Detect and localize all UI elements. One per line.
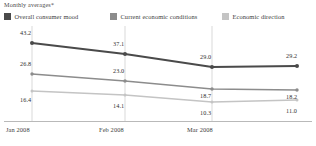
value-label-series-0-1: 37.1 <box>113 40 124 47</box>
point-series-2-1 <box>124 94 127 97</box>
point-series-2-2 <box>211 101 214 104</box>
value-label-series-0-2: 29.0 <box>200 53 211 60</box>
point-series-1-2 <box>210 87 213 90</box>
point-series-2-0 <box>31 90 34 93</box>
legend-swatch-icon-series-1 <box>110 13 117 20</box>
x-tick-label-0: Jan 2008 <box>6 126 30 133</box>
point-series-0-3 <box>295 64 299 68</box>
value-label-series-1-2: 18.7 <box>200 92 211 99</box>
point-series-1-3 <box>295 88 298 91</box>
value-label-series-2-1: 14.1 <box>113 102 124 109</box>
chart-container: Monthly averages* Overall consumer mood … <box>0 0 316 146</box>
line-series-1 <box>32 74 297 90</box>
value-label-series-2-0: 16.4 <box>20 96 31 103</box>
series-line-overall-consumer-mood <box>30 41 299 69</box>
x-axis-line <box>4 121 312 122</box>
chart-title: Monthly averages* <box>4 1 54 8</box>
point-series-0-2 <box>210 65 214 69</box>
value-label-series-2-2: 10.3 <box>200 109 211 116</box>
legend-swatch-icon-series-2 <box>222 13 229 20</box>
line-series-0 <box>32 43 297 67</box>
plot-area: 43.2 37.1 29.0 29.2 26.8 23.0 18.7 18.2 … <box>0 26 316 121</box>
legend-item-overall-consumer-mood[interactable]: Overall consumer mood <box>4 13 78 20</box>
legend-item-current-economic-conditions[interactable]: Current economic conditions <box>110 13 197 20</box>
legend-item-economic-direction[interactable]: Economic direction <box>222 13 285 20</box>
x-tick-label-2: Mar 2008 <box>187 126 213 133</box>
plot-svg <box>0 26 316 121</box>
legend-label-series-2: Economic direction <box>233 13 285 20</box>
line-series-2 <box>32 91 297 102</box>
chart-legend: Overall consumer mood Current economic c… <box>4 13 312 24</box>
value-label-series-0-0: 43.2 <box>20 29 31 36</box>
legend-label-series-1: Current economic conditions <box>121 13 198 20</box>
point-series-1-1 <box>123 79 126 82</box>
legend-swatch-icon-series-0 <box>4 13 11 20</box>
point-series-1-0 <box>30 72 33 75</box>
value-label-series-1-0: 26.8 <box>20 60 31 67</box>
series-line-economic-direction <box>31 90 299 104</box>
point-series-0-1 <box>123 52 127 56</box>
x-axis: Jan 2008 Feb 2008 Mar 2008 <box>0 121 316 146</box>
value-label-series-1-3: 18.2 <box>286 93 297 100</box>
value-label-series-2-3: 11.0 <box>286 107 297 114</box>
legend-label-series-0: Overall consumer mood <box>15 13 79 20</box>
x-tick-label-1: Feb 2008 <box>99 126 124 133</box>
value-label-series-1-1: 23.0 <box>113 67 124 74</box>
series-line-current-economic-conditions <box>30 72 298 91</box>
value-label-series-0-3: 29.2 <box>286 52 297 59</box>
point-series-0-0 <box>30 41 34 45</box>
